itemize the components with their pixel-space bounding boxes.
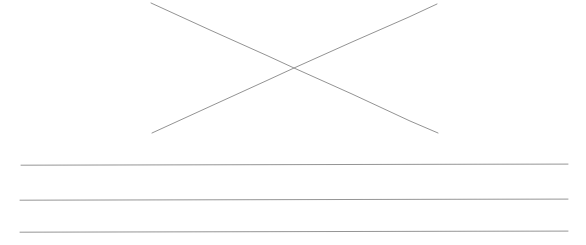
drawing-surface	[0, 0, 586, 245]
page-background	[0, 0, 586, 245]
figure-canvas: Crossed-out ruled sheet A large X formed…	[0, 0, 586, 245]
